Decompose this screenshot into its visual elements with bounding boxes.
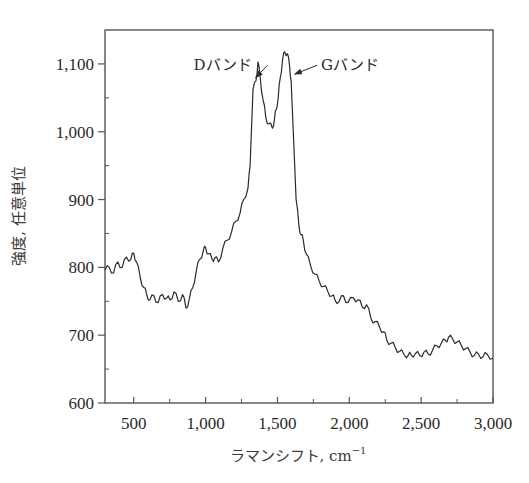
y-tick-label: 1,000 — [56, 123, 94, 142]
data-series — [105, 52, 493, 360]
y-tick-label: 600 — [69, 394, 95, 413]
plot-border — [105, 30, 493, 403]
x-tick-label: 2,500 — [402, 414, 440, 433]
x-tick-label: 3,000 — [474, 414, 512, 433]
g-band-label: Gバンド — [321, 56, 379, 74]
plot-frame — [105, 30, 493, 403]
raman-spectrum-chart: 5001,0001,5002,0002,5003,000 60070080090… — [0, 0, 529, 483]
spectrum-line — [105, 52, 493, 360]
y-axis: 6007008009001,0001,100 — [56, 55, 109, 413]
x-tick-label: 1,500 — [258, 414, 296, 433]
x-tick-label: 2,000 — [330, 414, 368, 433]
d-band-label: Dバンド — [194, 56, 252, 74]
x-tick-label: 1,000 — [186, 414, 224, 433]
x-axis-title-text: ラマンシフト, cm — [230, 447, 352, 465]
y-tick-label: 1,100 — [56, 55, 94, 74]
y-tick-label: 900 — [69, 191, 95, 210]
x-axis-title-superscript: −1 — [352, 445, 367, 456]
y-axis-title: 強度, 任意単位 — [10, 166, 28, 266]
annotations: DバンドGバンド — [194, 56, 380, 77]
x-axis-title: ラマンシフト, cm−1 — [230, 445, 367, 465]
g-band-arrow — [295, 65, 317, 74]
x-tick-label: 500 — [121, 414, 147, 433]
y-tick-label: 700 — [69, 326, 95, 345]
y-tick-label: 800 — [69, 258, 95, 277]
